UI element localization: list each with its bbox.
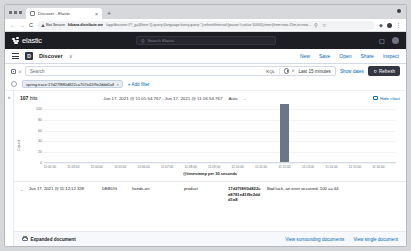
elastic-brand[interactable]: elastic [12,36,42,45]
minimize-window-button[interactable] [14,11,17,14]
browser-window: Discover - Elastic × + ← → C Not Secure … [4,4,407,247]
time-range-label[interactable]: Last 15 minutes [294,69,330,74]
chrome-menu-icon[interactable] [397,9,401,13]
doc-trace-id: 17d27f8ff0d822ca8781e41f9e2ddd1a8 [228,186,262,203]
chart-time-range: Jun 17, 2021 @ 11:01:54.767 - Jun 17, 20… [103,96,222,101]
query-bar: ∨ Search KQL ∨ Last 15 minutes Show date… [5,64,406,78]
back-icon[interactable]: ← [10,22,16,28]
window-controls[interactable] [8,5,26,19]
close-window-button[interactable] [9,11,12,14]
chart-gridline [44,152,396,153]
chart-icon [373,96,378,101]
search-icon[interactable]: ⚲ [314,22,318,28]
table-row[interactable]: ⌄ Jun 17, 2021 @ 11:12:12.328 DEBUG hand… [20,186,400,203]
chart-x-tick: 11:02:00 [44,165,56,169]
chart-gridline [44,120,396,121]
kibana-header: elastic ⚲ Search Elastic ▢ [5,32,406,49]
doc-service: hands-on [132,186,184,191]
close-tab-icon[interactable]: × [95,11,98,17]
chart-gridline [44,141,396,142]
inspect-button[interactable]: Inspect [383,53,399,59]
chart-y-tick: 20 [38,150,42,154]
chart-x-tick: 11:04:00 [91,165,103,169]
chevron-down-icon[interactable]: ∨ [69,54,73,59]
filter-pill[interactable]: spring.trace:17d27f8ff0d822ca707e41f9e2d… [22,80,123,88]
filter-remove-icon[interactable]: × [116,82,118,87]
save-button[interactable]: Save [319,53,330,59]
open-button[interactable]: Open [339,53,351,59]
documents-table: ⌄ Jun 17, 2021 @ 11:12:12.328 DEBUG hand… [14,181,406,203]
header-actions: ▢ [379,37,399,44]
user-avatar[interactable] [392,37,399,44]
chart-x-tick: 11:15:00 [349,165,361,169]
share-button[interactable]: Share [361,53,374,59]
chart-gridline [44,109,396,110]
refresh-label: Refresh [379,69,395,74]
browser-menu-icon[interactable]: ⋮ [396,22,401,28]
address-bar[interactable]: Not Secure kibana.distribute.me /app/dis… [37,21,375,30]
interval-dash: – [243,96,245,101]
folder-icon [22,237,28,242]
filter-globe-icon[interactable] [11,81,17,87]
chart-x-tick: 11:10:00 [232,165,244,169]
filter-pill-label: spring.trace:17d27f8ff0d822ca707e41f9e2d… [26,82,114,87]
dataview-selector[interactable]: ∨ [11,69,21,74]
chart-x-tick: 11:11:00 [255,165,267,169]
chart-gridline [44,163,396,164]
warning-triangle-icon [41,24,45,27]
histogram-chart: Count 10080604020011:02:0011:03:0011:04:… [14,105,406,181]
search-placeholder: Search [30,69,45,74]
doc-level: DEBUG [102,186,132,191]
news-feed-icon[interactable]: ▢ [379,37,385,44]
chart-x-tick: 11:06:00 [138,165,150,169]
url-host: kibana.distribute.me [68,23,103,27]
chart-plot-area[interactable]: 10080604020011:02:0011:03:0011:04:0011:0… [44,109,396,163]
chart-x-tick: 11:12:00 [278,165,290,169]
hit-count: 107 hits [20,95,38,101]
url-path: /app/discover#/?_g=(filters:!(),query:(l… [106,23,311,27]
browser-tab[interactable]: Discover - Elastic × [26,8,102,19]
refresh-button[interactable]: ↻ Refresh [368,66,400,76]
global-search-input[interactable]: ⚲ Search Elastic [136,36,276,45]
view-single-document-link[interactable]: View single document [353,237,398,242]
refresh-icon: ↻ [373,69,377,74]
show-dates-button[interactable]: Show dates [340,69,364,74]
chart-y-axis-label: Count [16,140,21,151]
expand-row-icon[interactable]: ⌄ [20,186,29,192]
chart-x-tick: 11:09:00 [208,165,220,169]
extensions-icon[interactable]: ◆ [379,22,383,28]
chart-x-tick: 11:05:00 [114,165,126,169]
interval-select[interactable]: Auto [228,96,237,101]
chart-x-tick: 11:07:00 [161,165,173,169]
expanded-document-text: Expanded document [31,237,76,242]
search-icon: ⚲ [141,38,145,44]
not-secure-indicator[interactable]: Not Secure [41,23,65,27]
bookmark-icon[interactable]: ☆ [322,22,326,28]
chart-bar[interactable] [280,104,289,162]
not-secure-label: Not Secure [46,23,65,27]
profile-avatar-icon[interactable] [387,23,392,28]
chart-controls: Jun 17, 2021 @ 11:01:54.767 - Jun 17, 20… [103,96,246,101]
hit-count-label: hits [30,95,38,101]
view-surrounding-documents-link[interactable]: View surrounding documents [285,237,344,242]
doc-timestamp-value: Jun 17, 2021 @ 11:12:12.328 [29,186,84,191]
hits-row: 107 hits Jun 17, 2021 @ 11:01:54.767 - J… [14,91,406,105]
reload-icon[interactable]: C [29,22,33,28]
maximize-window-button[interactable] [19,11,22,14]
query-language-button[interactable]: KQL [266,69,279,74]
chart-x-axis-label: @timestamp per 30 seconds [14,171,406,176]
hamburger-menu-icon[interactable] [12,53,19,59]
main-content: » 107 hits Jun 17, 2021 @ 11:01:54.767 -… [5,91,406,246]
tab-title: Discover - Elastic [38,11,70,16]
hide-chart-button[interactable]: Hide chart [373,96,400,101]
hit-count-value: 107 [20,95,28,101]
add-filter-button[interactable]: + Add filter [128,82,150,87]
new-button[interactable]: New [300,53,310,59]
sidebar-toggle-icon[interactable]: » [8,95,11,100]
chart-x-tick: 11:13:00 [302,165,314,169]
footer-actions: View surrounding documents View single d… [285,237,398,242]
forward-icon[interactable]: → [20,22,26,28]
time-picker-quick-menu[interactable]: ∨ [279,68,294,73]
search-input[interactable]: Search KQL ∨ Last 15 minutes [25,66,336,76]
new-tab-icon[interactable]: + [102,8,116,19]
